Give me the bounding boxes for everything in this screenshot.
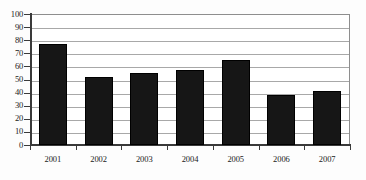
y-axis-tick (24, 27, 31, 28)
x-axis-tick (213, 145, 214, 150)
bar (222, 60, 250, 145)
x-axis-tick (167, 145, 168, 150)
chart-figure: 0102030405060708090100 20012002200320042… (0, 0, 366, 180)
x-axis-tick (121, 145, 122, 150)
bar (85, 77, 113, 145)
y-axis-tick (24, 14, 31, 15)
y-axis-tick (24, 119, 31, 120)
x-axis-tick (76, 145, 77, 150)
x-axis-tick-label: 2006 (258, 155, 304, 164)
y-axis-tick (24, 106, 31, 107)
bar (313, 91, 341, 145)
x-axis-tick-label: 2001 (30, 155, 76, 164)
x-axis-tick (30, 145, 31, 150)
bar (130, 73, 158, 145)
x-axis-tick-label: 2003 (121, 155, 167, 164)
x-axis-tick-label: 2004 (167, 155, 213, 164)
x-axis-tick-label: 2005 (213, 155, 259, 164)
bar (176, 70, 204, 145)
y-axis-tick (24, 132, 31, 133)
bar (267, 95, 295, 145)
y-axis-tick (24, 40, 31, 41)
y-axis-tick (24, 93, 31, 94)
bar (39, 44, 67, 145)
x-axis-tick-label: 2002 (76, 155, 122, 164)
y-axis-tick (24, 80, 31, 81)
bar-series (0, 0, 366, 180)
x-axis-tick (259, 145, 260, 150)
x-axis-tick (350, 145, 351, 150)
x-axis-tick-label: 2007 (304, 155, 350, 164)
y-axis-tick (24, 53, 31, 54)
y-axis-tick (24, 66, 31, 67)
x-axis-tick (304, 145, 305, 150)
